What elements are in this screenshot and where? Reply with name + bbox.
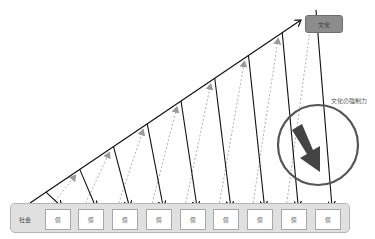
individual-label: 個 — [223, 216, 229, 224]
individual-box: 個 — [112, 209, 138, 230]
individual-label: 個 — [122, 216, 128, 224]
influence-arrow — [80, 169, 96, 207]
society-bar: 社会 個 個 個 個 個 個 個 個 個 — [10, 203, 350, 233]
culture-growth-arrow — [30, 20, 301, 203]
individual-label: 個 — [325, 216, 331, 224]
feedback-arrow — [286, 16, 312, 207]
individual-label: 個 — [291, 216, 297, 224]
individual-box: 個 — [247, 209, 273, 230]
influence-arrow — [147, 124, 163, 207]
dashed-feedback-arrows — [50, 16, 312, 207]
thick-arrow-icon — [292, 124, 320, 172]
influence-arrow — [215, 78, 231, 207]
culture-influence-arrows — [46, 10, 332, 207]
feedback-arrow — [253, 38, 279, 207]
individual-label: 個 — [55, 216, 61, 224]
society-label: 社会 — [19, 215, 31, 224]
feedback-arrow — [219, 61, 245, 207]
individual-label: 個 — [190, 216, 196, 224]
influence-arrow — [316, 10, 332, 207]
individual-box: 個 — [146, 209, 172, 230]
culture-label: 文化 — [318, 20, 330, 29]
influence-arrow — [249, 55, 265, 207]
influence-arrow — [114, 147, 130, 207]
individual-box: 個 — [213, 209, 239, 230]
culture-box: 文化 — [305, 15, 343, 33]
influence-arrow — [181, 101, 197, 207]
individual-label: 個 — [88, 216, 94, 224]
individual-label: 個 — [156, 216, 162, 224]
feedback-arrow — [84, 152, 110, 207]
coercive-force-label: 文化の強制力 — [331, 96, 367, 105]
individual-box: 個 — [315, 209, 341, 230]
individual-box: 個 — [180, 209, 206, 230]
individual-box: 個 — [78, 209, 104, 230]
feedback-arrow — [151, 107, 177, 207]
individual-box: 個 — [45, 209, 71, 230]
coercive-force-circle — [278, 105, 358, 185]
individual-box: 個 — [281, 209, 307, 230]
feedback-arrow — [185, 84, 211, 207]
influence-arrow — [282, 33, 298, 207]
diagram: 文化 文化の強制力 社会 個 個 個 個 個 個 個 個 個 — [0, 0, 375, 239]
individual-label: 個 — [257, 216, 263, 224]
